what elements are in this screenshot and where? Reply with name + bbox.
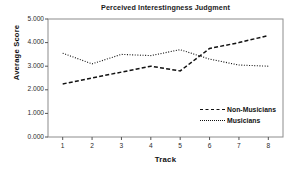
chart-legend: Non-Musicians Musicians — [200, 104, 282, 126]
legend-item-musicians: Musicians — [200, 115, 282, 126]
legend-item-label: Musicians — [227, 117, 260, 124]
series-line-musicians — [63, 50, 269, 67]
dotted-line-icon — [200, 117, 225, 124]
dashed-line-icon — [200, 106, 225, 113]
series-line-non-musicians — [63, 36, 269, 84]
chart-figure: Perceived Interestingness Judgment Avera… — [0, 0, 304, 171]
legend-item-label: Non-Musicians — [227, 106, 276, 113]
legend-item-non-musicians: Non-Musicians — [200, 104, 282, 115]
plot-area — [0, 0, 304, 171]
